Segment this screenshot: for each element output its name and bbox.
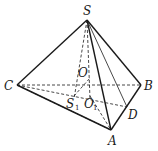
pyramid-diagram: S C B A D O S 1 O 1 <box>0 0 158 151</box>
label-A: A <box>107 134 117 148</box>
edge-SA <box>87 20 111 130</box>
label-O1-sub: 1 <box>93 104 97 112</box>
edge-SC <box>17 20 87 85</box>
label-S1-sub: 1 <box>75 104 79 112</box>
segment-S-S1 <box>74 20 87 99</box>
label-O: O <box>78 66 88 80</box>
label-C: C <box>4 79 13 93</box>
label-D: D <box>127 108 138 122</box>
label-S: S <box>83 4 91 18</box>
label-S1: S <box>66 97 74 111</box>
edge-SB <box>87 20 141 85</box>
label-B: B <box>143 79 153 93</box>
segment-S1-O <box>74 78 90 96</box>
segment-SD <box>87 20 127 107</box>
